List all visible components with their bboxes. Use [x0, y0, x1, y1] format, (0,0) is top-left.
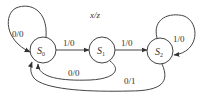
state-subscript: 1	[102, 51, 105, 57]
state-subscript: 0	[42, 51, 45, 57]
transition-label-s1-s0: 0/0	[68, 68, 80, 78]
transition-label-s0-s1: 1/0	[63, 38, 75, 48]
transition-label-s1-s2: 1/0	[121, 38, 133, 48]
state-subscript: 2	[160, 52, 163, 58]
state-diagram: x/z 0/0 1/0 1/0 1/0 0/0 0/1 S0 S1 S2	[0, 0, 207, 101]
transition-label-s2-s2: 1/0	[173, 34, 185, 44]
transition-label-s2-s0: 0/1	[124, 76, 136, 86]
transition-label-s0-s0: 0/0	[12, 29, 24, 39]
state-s2: S2	[147, 38, 173, 64]
legend-label: x/z	[89, 10, 100, 20]
state-s1: S1	[89, 37, 115, 63]
state-s0: S0	[30, 37, 56, 63]
